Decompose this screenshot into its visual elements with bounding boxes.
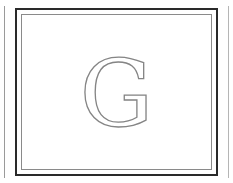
- monogram-frame: G: [15, 8, 218, 176]
- monogram-letter: G: [22, 49, 211, 141]
- inner-border: G: [21, 14, 212, 170]
- left-divider-line: [4, 6, 5, 178]
- right-divider-line: [228, 6, 229, 178]
